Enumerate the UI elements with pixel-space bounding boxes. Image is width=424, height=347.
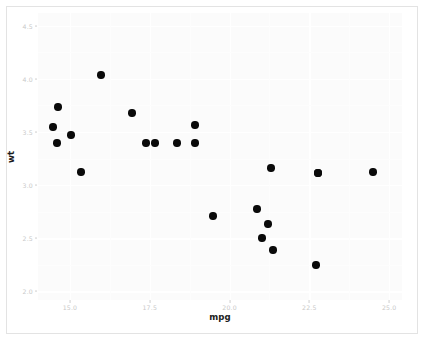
- y-tick-label-5: 4.5: [23, 22, 33, 29]
- x-tick-label-2: 20.0: [222, 304, 237, 311]
- data-point: [49, 123, 56, 130]
- gridline-x-0: [70, 13, 71, 300]
- data-point: [209, 212, 216, 219]
- x-tick-label-1: 17.5: [142, 304, 157, 311]
- y-tick-mark-1: [35, 238, 38, 239]
- y-tick-label-0: 2.0: [23, 288, 33, 295]
- y-axis-title: wt: [4, 13, 18, 300]
- y-tick-mark-2: [35, 185, 38, 186]
- minor-gridline-y-4: [38, 52, 402, 53]
- plot-panel: [38, 13, 402, 300]
- gridline-x-4: [389, 13, 390, 300]
- gridline-y-4: [38, 79, 402, 80]
- gridline-y-2: [38, 185, 402, 186]
- gridline-y-5: [38, 26, 402, 27]
- data-point: [97, 71, 104, 78]
- y-axis-title-text: wt: [6, 150, 16, 162]
- y-tick-label-1: 2.5: [23, 235, 33, 242]
- data-point: [173, 139, 180, 146]
- data-point: [53, 139, 60, 146]
- x-tick-mark-4: [389, 300, 390, 303]
- data-point: [269, 246, 276, 253]
- x-axis-title: mpg: [38, 312, 402, 322]
- data-point: [151, 139, 158, 146]
- x-tick-mark-2: [229, 300, 230, 303]
- y-tick-mark-3: [35, 132, 38, 133]
- data-point: [267, 164, 274, 171]
- data-point: [77, 168, 84, 175]
- minor-gridline-y-3: [38, 105, 402, 106]
- data-point: [314, 169, 321, 176]
- gridline-x-1: [150, 13, 151, 300]
- minor-gridline-y-2: [38, 159, 402, 160]
- gridline-y-1: [38, 238, 402, 239]
- minor-gridline-x-2: [269, 13, 270, 300]
- y-tick-mark-4: [35, 78, 38, 79]
- gridline-x-3: [309, 13, 310, 300]
- data-point: [264, 220, 271, 227]
- minor-gridline-x-3: [349, 13, 350, 300]
- y-tick-mark-0: [35, 291, 38, 292]
- data-point: [258, 234, 265, 241]
- minor-gridline-y-1: [38, 212, 402, 213]
- x-tick-mark-1: [149, 300, 150, 303]
- x-tick-label-4: 25.0: [382, 304, 397, 311]
- data-point: [369, 168, 376, 175]
- data-point: [128, 109, 135, 116]
- gridline-x-2: [230, 13, 231, 300]
- data-point: [312, 261, 319, 268]
- y-tick-label-3: 3.5: [23, 129, 33, 136]
- y-tick-label-2: 3.0: [23, 182, 33, 189]
- data-point: [142, 139, 149, 146]
- data-point: [67, 131, 74, 138]
- x-tick-label-0: 15.0: [63, 304, 78, 311]
- scatter-plot-figure: 2.02.53.03.54.04.5 15.017.520.022.525.0 …: [0, 0, 424, 347]
- gridline-y-0: [38, 291, 402, 292]
- minor-gridline-x-0: [110, 13, 111, 300]
- data-point: [191, 139, 198, 146]
- data-point: [191, 121, 198, 128]
- gridline-y-3: [38, 132, 402, 133]
- y-tick-mark-5: [35, 25, 38, 26]
- data-point: [253, 205, 260, 212]
- minor-gridline-x-1: [190, 13, 191, 300]
- x-tick-mark-0: [69, 300, 70, 303]
- data-point: [54, 103, 61, 110]
- y-tick-label-4: 4.0: [23, 75, 33, 82]
- x-tick-mark-3: [309, 300, 310, 303]
- x-tick-label-3: 22.5: [302, 304, 317, 311]
- minor-gridline-y-0: [38, 265, 402, 266]
